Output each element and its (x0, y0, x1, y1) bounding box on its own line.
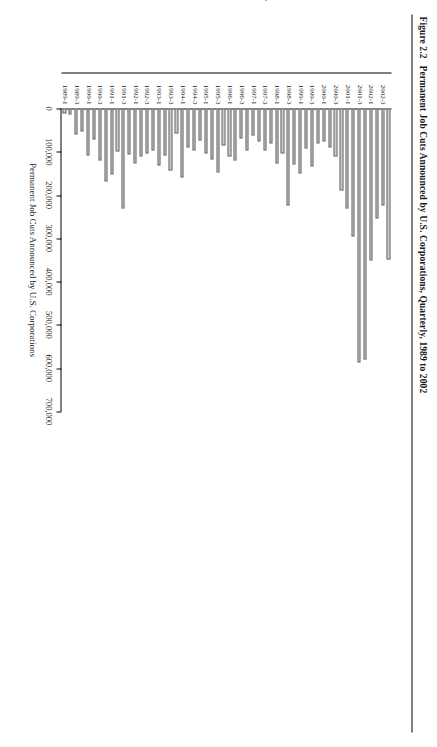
figure-number: Figure 2.2 (417, 16, 427, 58)
category-tick-label: 2001-3 (355, 84, 363, 104)
category-tick-label: 1995-3 (213, 84, 221, 104)
bar (180, 108, 183, 177)
category-tick-label: 1989-3 (72, 84, 80, 104)
bar-row (280, 108, 283, 411)
bar-row (339, 108, 342, 411)
value-tick (56, 324, 61, 325)
bar (381, 108, 384, 205)
category-tick-label: 1999-3 (307, 84, 315, 104)
bar (263, 108, 266, 150)
bar (92, 108, 95, 139)
category-tick-label: 2000-1 (319, 84, 327, 104)
bar (251, 108, 254, 135)
bar-row (304, 108, 307, 411)
bar (68, 108, 71, 114)
bar-row (227, 108, 230, 411)
category-tick-label: 2002-1 (366, 84, 374, 104)
value-tick (56, 108, 61, 109)
bar (351, 108, 354, 236)
bar (333, 108, 336, 156)
bar (257, 108, 260, 141)
category-tick-label: 1998-3 (284, 84, 292, 104)
bar-row (121, 108, 124, 411)
bar (186, 108, 189, 147)
bar-row (369, 108, 372, 411)
category-tick-label: 1993-1 (154, 84, 162, 104)
value-tick-label: 400,000 (43, 267, 53, 295)
bar (227, 108, 230, 156)
bar-row (292, 108, 295, 411)
bar-row (310, 108, 313, 411)
bar-row (104, 108, 107, 411)
bar-row (168, 108, 171, 411)
value-tick-label: 600,000 (43, 354, 53, 382)
bar (345, 108, 348, 208)
figure-title: Figure 2.2Permanent Job Cuts Announced b… (417, 16, 427, 393)
value-tick (56, 151, 61, 152)
bar-row (180, 108, 183, 411)
bar-row (216, 108, 219, 411)
bar-row (92, 108, 95, 411)
bar (375, 108, 378, 218)
bar (328, 108, 331, 147)
bar (298, 108, 301, 173)
category-axis-labels: 1989-11989-31990-11990-31991-11991-31992… (61, 0, 391, 104)
category-tick-label: 1990-3 (95, 84, 103, 104)
value-tick (56, 411, 61, 412)
bar (145, 108, 148, 153)
bar-row (357, 108, 360, 411)
bar (110, 108, 113, 174)
bar-row (186, 108, 189, 411)
bar (74, 108, 77, 134)
bar (280, 108, 283, 153)
bar-row (151, 108, 154, 411)
bar (275, 108, 278, 163)
bar-row (386, 108, 389, 411)
bar (192, 108, 195, 150)
title-divider (411, 14, 412, 732)
bar-row (192, 108, 195, 411)
bar-row (139, 108, 142, 411)
bar (157, 108, 160, 165)
category-tick-label: 1999-1 (296, 84, 304, 104)
bar (133, 108, 136, 163)
bar-row (110, 108, 113, 411)
bar (322, 108, 325, 141)
value-tick-label: 200,000 (43, 181, 53, 209)
bar-row (98, 108, 101, 411)
bar-row (163, 108, 166, 411)
category-tick-label: 1994-1 (178, 84, 186, 104)
category-tick-label: 1991-3 (119, 84, 127, 104)
value-tick (56, 281, 61, 282)
bar-row (257, 108, 260, 411)
value-tick-label: 700,000 (43, 397, 53, 425)
bar (239, 108, 242, 138)
bar-row (251, 108, 254, 411)
bar (139, 108, 142, 156)
bar-row (328, 108, 331, 411)
bar (386, 108, 389, 259)
bar (292, 108, 295, 164)
bar-row (145, 108, 148, 411)
category-tick-label: 1995-1 (201, 84, 209, 104)
bar-row (263, 108, 266, 411)
bar-row (363, 108, 366, 411)
figure-page: Figure 2.2Permanent Job Cuts Announced b… (0, 0, 437, 747)
bar-row (74, 108, 77, 411)
value-tick (56, 195, 61, 196)
category-tick-label: 1989-1 (60, 84, 68, 104)
bar (115, 108, 118, 151)
bar (316, 108, 319, 143)
bar-row (322, 108, 325, 411)
category-tick-label: 1992-3 (142, 84, 150, 104)
bar-row (204, 108, 207, 411)
value-tick-label: 100,000 (43, 137, 53, 165)
bar (174, 108, 177, 133)
bar-row (62, 108, 65, 411)
category-tick-label: 1992-1 (131, 84, 139, 104)
bar (216, 108, 219, 172)
bar-row (221, 108, 224, 411)
bar (62, 108, 65, 113)
bar-row (198, 108, 201, 411)
category-tick-label: 1996-3 (237, 84, 245, 104)
